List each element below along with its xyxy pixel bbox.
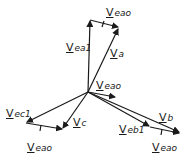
- label-veao-bottom-right: Veao: [152, 138, 177, 154]
- label-veao-bottom-left: Veao: [27, 138, 52, 154]
- phasor-svg: [0, 0, 190, 161]
- label-vebl: Veb1: [119, 120, 145, 136]
- veao-bl-arrow: [26, 123, 62, 129]
- label-vec1: Vec1: [6, 104, 31, 120]
- label-vb: Vb: [159, 108, 173, 124]
- label-vea1: Vea1: [66, 38, 91, 54]
- label-vc: Vc: [73, 113, 86, 129]
- label-veao-top: Veao: [106, 3, 131, 19]
- label-va: Va: [110, 44, 124, 60]
- vea1-arrow: [88, 21, 90, 92]
- label-veao-center: Veao: [96, 76, 121, 92]
- phasor-diagram: Veao Vea1 Va Veao Vec1 Vc Veao Veb1 Vb V…: [0, 0, 190, 161]
